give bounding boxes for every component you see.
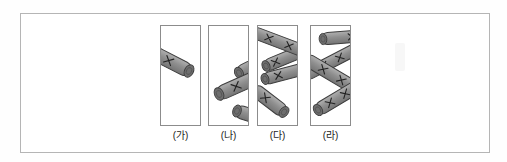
- panel-label-ga: (가): [160, 129, 201, 143]
- panel-na: [208, 25, 249, 126]
- scan-artifact: [395, 43, 405, 71]
- panel-ra: [310, 25, 351, 126]
- panel-da: [257, 25, 298, 126]
- rod-diagram-ga: [161, 26, 200, 125]
- panel-label-ra: (라): [310, 129, 351, 143]
- panel-label-na: (나): [208, 129, 249, 143]
- rod-diagram-da: [258, 26, 297, 125]
- screenshot-root: (가) (나) (다) (라): [0, 0, 507, 162]
- figure-frame: (가) (나) (다) (라): [20, 13, 490, 153]
- panel-label-da: (다): [257, 129, 298, 143]
- panel-ga: [160, 25, 201, 126]
- rod-diagram-ra: [311, 26, 350, 125]
- rod-diagram-na: [209, 26, 248, 125]
